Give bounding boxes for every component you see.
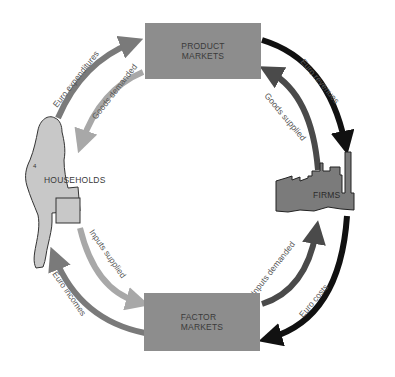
briefcase-icon <box>56 198 80 223</box>
label-inputs-supplied: Inputs supplied <box>87 227 128 280</box>
factor-markets-line2: MARKETS <box>181 322 224 332</box>
firms-label: FIRMS <box>313 190 340 200</box>
factor-markets-line1: FACTOR <box>181 312 224 322</box>
factor-markets-box: FACTOR MARKETS <box>144 293 260 351</box>
label-goods-demanded: Goods demanded <box>90 62 140 122</box>
arrow-inputs-supplied <box>80 228 138 302</box>
product-markets-line2: MARKETS <box>181 51 224 61</box>
arrow-goods-demanded <box>82 72 143 142</box>
households-silhouette-icon: 4 <box>26 117 80 268</box>
product-markets-line1: PRODUCT <box>181 41 224 51</box>
circular-flow-diagram: Euro expenditures Goods demanded Euro re… <box>0 0 395 377</box>
flow-inputs-supplied <box>80 228 138 302</box>
households-label: HOUSEHOLDS <box>44 175 106 185</box>
label-euro-revenues: Euro revenues <box>298 57 341 106</box>
label-euro-incomes: Euro incomes <box>50 269 88 317</box>
flow-euro-costs <box>270 216 347 338</box>
flow-goods-demanded <box>82 72 143 142</box>
product-markets-box: PRODUCT MARKETS <box>145 23 261 79</box>
label-euro-expenditures: Euro expenditures <box>51 49 101 110</box>
arrow-euro-costs <box>270 216 347 338</box>
label-goods-supplied: Goods supplied <box>262 91 308 143</box>
